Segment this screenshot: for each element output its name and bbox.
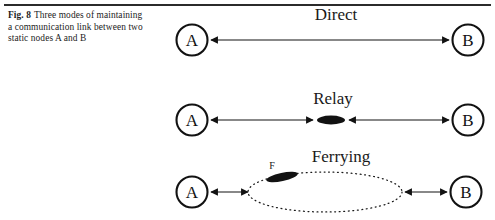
node-b-relay xyxy=(453,105,484,136)
mode-title-direct: Direct xyxy=(315,6,357,23)
mode-title-ferrying: Ferrying xyxy=(312,148,371,165)
node-b-direct xyxy=(453,25,484,56)
row-ferrying xyxy=(177,170,482,212)
figure-8: Fig. 8Three modes of maintaining a commu… xyxy=(0,0,495,220)
row-relay xyxy=(177,105,484,136)
row-direct xyxy=(177,25,484,56)
ferry-node-label: F xyxy=(269,161,275,171)
figure-diagram-canvas xyxy=(0,0,495,220)
node-a-relay xyxy=(177,105,208,136)
node-a-ferrying xyxy=(177,177,208,208)
node-b-ferrying xyxy=(451,177,482,208)
node-a-direct xyxy=(177,25,208,56)
ferry-node xyxy=(265,170,298,185)
mode-title-relay: Relay xyxy=(313,90,353,107)
relay-node xyxy=(317,116,345,125)
